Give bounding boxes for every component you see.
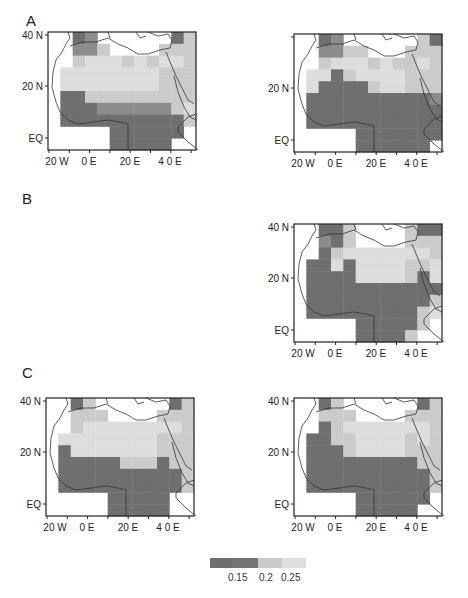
grid-cell: [331, 46, 344, 58]
grid-cell: [430, 271, 443, 283]
grid-cell: [405, 93, 418, 105]
grid-cell: [73, 115, 86, 127]
grid-cell: [169, 481, 182, 493]
grid-cell: [97, 56, 110, 68]
grid-cell: [145, 504, 158, 516]
grid-cell: [343, 433, 356, 445]
grid-cell: [58, 433, 71, 445]
grid-cell: [430, 81, 443, 93]
grid-cell: [343, 445, 356, 457]
grid-cell: [380, 259, 393, 271]
x-tick-label: 20 W: [291, 348, 315, 359]
grid-cell: [417, 469, 430, 481]
grid-cell: [60, 91, 73, 103]
grid-cell: [171, 56, 184, 68]
grid-cell: [405, 271, 418, 283]
grid-cell: [145, 481, 158, 493]
y-tick-label: EQ: [27, 499, 42, 510]
grid-cell: [184, 79, 197, 91]
grid-cell: [182, 398, 195, 410]
grid-cell: [380, 81, 393, 93]
grid-cell: [356, 259, 369, 271]
grid-cell: [393, 469, 406, 481]
grid-cell: [319, 117, 332, 129]
grid-cell: [417, 58, 430, 70]
grid-cell: [430, 128, 443, 140]
x-tick-label: 0 E: [81, 156, 96, 167]
grid-cell: [319, 81, 332, 93]
x-tick-label: 4 0 E: [404, 158, 428, 169]
grid-cell: [319, 105, 332, 117]
grid-cell: [343, 422, 356, 434]
grid-cell: [60, 79, 73, 91]
grid-cell: [430, 69, 443, 81]
grid-cell: [306, 481, 319, 493]
grid-cell: [134, 126, 147, 138]
map-b-right: 40 N20 NEQ20 W0 E20 E4 0 E: [246, 212, 466, 372]
grid-cell: [393, 481, 406, 493]
grid-cell: [356, 93, 369, 105]
grid-cell: [368, 271, 381, 283]
grid-cell: [417, 410, 430, 422]
grid-cell: [83, 481, 96, 493]
grid-cell: [306, 117, 319, 129]
grid-cell: [108, 445, 121, 457]
grid-cell: [58, 481, 71, 493]
grid-cell: [380, 93, 393, 105]
grid-cell: [85, 67, 98, 79]
grid-cell: [417, 117, 430, 129]
grid-cell: [159, 79, 172, 91]
grid-cell: [319, 469, 332, 481]
grid-cell: [331, 58, 344, 70]
grid-cell: [97, 103, 110, 115]
grid-cell: [430, 422, 443, 434]
y-tick-label: 20 N: [268, 447, 289, 458]
grid-cell: [380, 105, 393, 117]
grid-cell: [331, 283, 344, 295]
map-a-right: 20 NEQ20 W0 E20 E4 0 E: [246, 22, 466, 182]
grid-cell: [319, 422, 332, 434]
grid-cell: [319, 271, 332, 283]
grid-cell: [430, 34, 443, 46]
map-c-left: 40 N20 NEQ20 W0 E20 E4 0 E: [0, 386, 218, 546]
grid-cell: [380, 69, 393, 81]
colorbar-segment-1: [210, 558, 232, 568]
x-tick-label: 20 W: [291, 522, 315, 533]
grid-cell: [343, 236, 356, 248]
grid-cell: [169, 410, 182, 422]
grid-cell: [182, 410, 195, 422]
grid-cell: [417, 105, 430, 117]
y-tick-label: 40 N: [20, 396, 41, 407]
grid-cell: [108, 433, 121, 445]
grid-cell: [393, 307, 406, 319]
panel-letter-b: B: [22, 190, 32, 207]
grid-cell: [122, 56, 135, 68]
grid-cell: [97, 44, 110, 56]
grid-cell: [380, 283, 393, 295]
grid-cell: [331, 433, 344, 445]
grid-cell: [405, 330, 418, 342]
x-tick-label: 0 E: [79, 522, 94, 533]
grid-cell: [134, 56, 147, 68]
grid-cell: [356, 46, 369, 58]
grid-cell: [157, 433, 170, 445]
grid-cell: [120, 445, 133, 457]
grid-cell: [85, 56, 98, 68]
grid-cell: [380, 422, 393, 434]
y-tick-label: EQ: [275, 135, 290, 146]
grid-cell: [430, 236, 443, 248]
grid-cell: [393, 492, 406, 504]
grid-cell: [368, 457, 381, 469]
grid-cell: [380, 433, 393, 445]
grid-cell: [122, 79, 135, 91]
grid-cell: [132, 433, 145, 445]
grid-cell: [184, 44, 197, 56]
grid-cell: [405, 445, 418, 457]
grid-cell: [417, 34, 430, 46]
grid-cell: [157, 457, 170, 469]
grid-cell: [343, 93, 356, 105]
grid-cell: [159, 103, 172, 115]
grid-cell: [417, 481, 430, 493]
grid-cell: [95, 457, 108, 469]
grid-cell: [356, 318, 369, 330]
